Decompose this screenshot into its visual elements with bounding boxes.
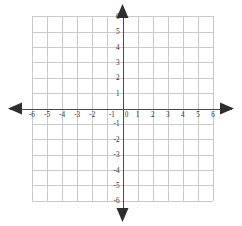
x-tick-label: 1 xyxy=(136,111,140,119)
y-tick-label: 6 xyxy=(116,13,120,21)
y-tick-label: 2 xyxy=(116,74,120,82)
y-tick-label: -4 xyxy=(114,167,120,175)
coordinate-plane: -6-5-4-3-2-10123456 654321-1-2-3-4-5-6 xyxy=(0,0,242,226)
x-tick-label: 3 xyxy=(166,111,170,119)
x-tick-label: 5 xyxy=(196,111,200,119)
x-tick-label: 6 xyxy=(211,111,215,119)
y-tick-label: -3 xyxy=(114,151,120,159)
y-tick-label: 4 xyxy=(116,44,120,52)
y-tick-label: -1 xyxy=(114,120,120,128)
y-tick-label: -5 xyxy=(114,182,120,190)
x-tick-label: -4 xyxy=(59,111,65,119)
x-tick-label: 2 xyxy=(151,111,155,119)
y-tick-label: 1 xyxy=(116,90,120,98)
x-tick-label: -1 xyxy=(109,111,115,119)
x-tick-label: -3 xyxy=(74,111,80,119)
y-tick-label: 5 xyxy=(116,28,120,36)
coordinate-grid-svg: -6-5-4-3-2-10123456 654321-1-2-3-4-5-6 xyxy=(0,0,242,226)
y-tick-label: -2 xyxy=(114,136,120,144)
x-tick-label: -5 xyxy=(44,111,50,119)
y-tick-label: -6 xyxy=(114,197,120,205)
x-tick-label: 4 xyxy=(181,111,185,119)
y-axis-down-arrow-icon xyxy=(117,208,129,222)
x-tick-label: -2 xyxy=(89,111,95,119)
y-tick-label: 3 xyxy=(116,59,120,67)
x-axis-right-arrow-icon xyxy=(220,103,234,115)
x-axis-left-arrow-icon xyxy=(8,103,22,115)
x-tick-label: -6 xyxy=(29,111,35,119)
origin-label: 0 xyxy=(125,111,129,119)
x-axis-tick-labels: -6-5-4-3-2-10123456 xyxy=(29,111,215,119)
